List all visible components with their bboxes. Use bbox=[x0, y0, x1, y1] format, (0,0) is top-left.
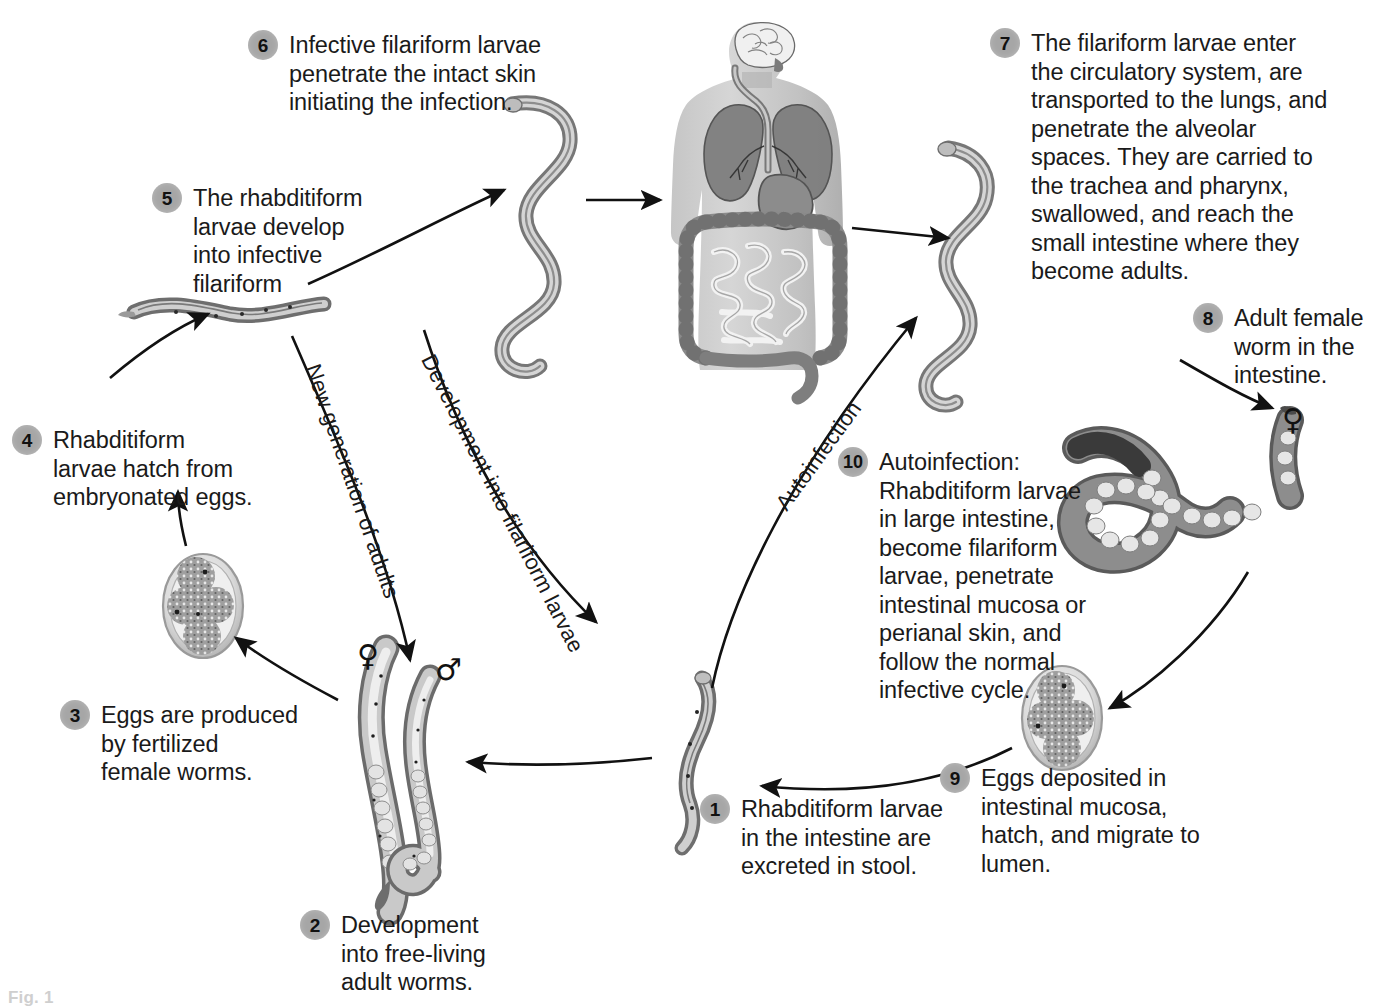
step-4-bullet: 4 bbox=[12, 425, 42, 455]
step-6: 6 Infective filariform larvae penetrate … bbox=[248, 30, 588, 117]
step-9-text: Eggs deposited in intestinal mucosa, hat… bbox=[981, 763, 1200, 878]
arrow-adults-to-eggs bbox=[236, 638, 338, 700]
step-1: 1 Rhabditiform larvae in the intestine a… bbox=[700, 794, 950, 881]
step-10: 10 Autoinfection: Rhabditiform larvae in… bbox=[838, 447, 1093, 705]
male-symbol-free-living: ♂ bbox=[435, 655, 462, 685]
female-symbol-adult-intestine: ♀ bbox=[1282, 405, 1304, 435]
figure-caption-fragment: Fig. 1 bbox=[8, 988, 54, 1006]
life-cycle-diagram: 1 Rhabditiform larvae in the intestine a… bbox=[0, 0, 1388, 1006]
step-5: 5 The rhabditiform larvae develop into i… bbox=[152, 183, 367, 298]
step-5-bullet: 5 bbox=[152, 183, 182, 213]
step-6-bullet: 6 bbox=[248, 30, 278, 60]
step-10-text: Autoinfection: Rhabditiform larvae in la… bbox=[879, 447, 1086, 705]
step-3-text: Eggs are produced by fertilized female w… bbox=[101, 700, 298, 787]
step-3: 3 Eggs are produced by fertilized female… bbox=[60, 700, 300, 787]
arrow-stool-to-freeliving bbox=[468, 758, 652, 765]
step-8-bullet: 8 bbox=[1193, 303, 1223, 333]
arrow-adultfemale-to-eggs9 bbox=[1110, 572, 1248, 708]
step-1-text: Rhabditiform larvae in the intestine are… bbox=[741, 794, 943, 881]
step-2: 2 Development into free-living adult wor… bbox=[300, 910, 540, 997]
step-5-text: The rhabditiform larvae develop into inf… bbox=[193, 183, 363, 298]
step-7: 7 The filariform larvae enter the circul… bbox=[990, 28, 1345, 286]
step-7-bullet: 7 bbox=[990, 28, 1020, 58]
step-7-text: The filariform larvae enter the circulat… bbox=[1031, 28, 1327, 286]
arrow-4-to-5 bbox=[110, 314, 208, 378]
step-2-bullet: 2 bbox=[300, 910, 330, 940]
step-4: 4 Rhabditiform larvae hatch from embryon… bbox=[12, 425, 257, 512]
step-8-text: Adult female worm in the intestine. bbox=[1234, 303, 1363, 390]
step-2-text: Development into free-living adult worms… bbox=[341, 910, 486, 997]
arrow-body-to-circulation bbox=[852, 228, 948, 238]
step-1-bullet: 1 bbox=[700, 794, 730, 824]
female-symbol-free-living: ♀ bbox=[357, 641, 379, 671]
step-10-bullet: 10 bbox=[838, 447, 868, 477]
step-4-text: Rhabditiform larvae hatch from embryonat… bbox=[53, 425, 253, 512]
step-9-bullet: 9 bbox=[940, 763, 970, 793]
step-6-text: Infective filariform larvae penetrate th… bbox=[289, 30, 541, 117]
step-9: 9 Eggs deposited in intestinal mucosa, h… bbox=[940, 763, 1210, 878]
step-3-bullet: 3 bbox=[60, 700, 90, 730]
step-8: 8 Adult female worm in the intestine. bbox=[1193, 303, 1383, 390]
